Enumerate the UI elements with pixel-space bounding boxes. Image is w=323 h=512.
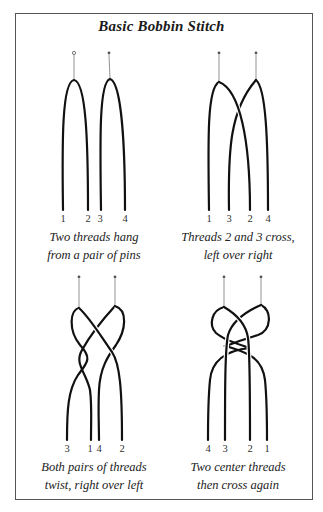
- thread-1: [208, 82, 219, 210]
- thread-label: 4: [96, 443, 102, 454]
- thread-label: 3: [97, 213, 102, 224]
- caption-line: from a pair of pins: [19, 246, 169, 264]
- thread-4: [256, 80, 268, 210]
- panel-1-drawing: 1 2 3 4: [60, 51, 128, 224]
- caption-line: Both pairs of threads: [19, 458, 169, 476]
- thread-pair-left: [63, 80, 88, 210]
- panel-3-caption: Both pairs of threads twist, right over …: [19, 458, 169, 494]
- thread-label: 4: [265, 213, 271, 224]
- panel-3-drawing: 3 1 4 2: [64, 276, 124, 454]
- thread-label: 3: [222, 443, 227, 454]
- caption-line: left over right: [163, 246, 313, 264]
- thread-label: 3: [64, 443, 69, 454]
- caption-line: twist, right over left: [19, 476, 169, 494]
- caption-line: Two threads hang: [19, 228, 169, 246]
- thread-label: 1: [60, 213, 65, 224]
- pin-icon: [114, 276, 117, 306]
- caption-line: Threads 2 and 3 cross,: [163, 228, 313, 246]
- thread-2: [224, 307, 250, 440]
- panel-2-drawing: 1 3 2 4: [206, 52, 271, 224]
- thread-label: 1: [264, 443, 269, 454]
- thread-label: 2: [119, 443, 124, 454]
- thread-label: 4: [205, 443, 211, 454]
- thread-label: 2: [247, 213, 252, 224]
- panel-4-drawing: 4 3 2 1: [205, 276, 269, 454]
- pin-icon: [72, 51, 75, 80]
- pin-icon: [260, 276, 263, 305]
- thread-label: 2: [247, 443, 252, 454]
- pin-icon: [108, 52, 111, 79]
- caption-line: then cross again: [163, 476, 313, 494]
- thread-label: 3: [226, 213, 231, 224]
- thread-pair-right: [100, 79, 125, 210]
- caption-line: Two center threads: [163, 458, 313, 476]
- pin-icon: [223, 276, 226, 307]
- thread-label: 2: [85, 213, 90, 224]
- pin-icon: [218, 52, 221, 82]
- pin-icon: [78, 276, 81, 308]
- panel-4-caption: Two center threads then cross again: [163, 458, 313, 494]
- panel-2-caption: Threads 2 and 3 cross, left over right: [163, 228, 313, 264]
- thread-label: 1: [206, 213, 211, 224]
- thread-label: 4: [122, 213, 128, 224]
- panel-1-caption: Two threads hang from a pair of pins: [19, 228, 169, 264]
- pin-icon: [255, 52, 258, 80]
- thread-label: 1: [87, 443, 92, 454]
